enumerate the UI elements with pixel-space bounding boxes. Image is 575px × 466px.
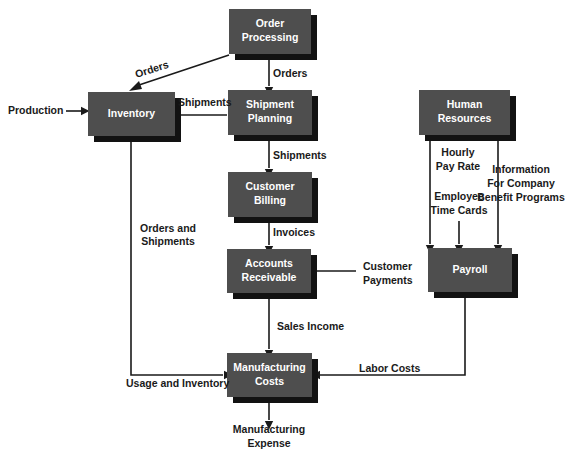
node-inventory[interactable]: Inventory (88, 92, 181, 142)
edge-label-labor_costs: Labor Costs (359, 362, 420, 374)
edge-label-shipments_to_inv: Shipments (178, 96, 232, 108)
node-label-order_processing: Order (256, 17, 285, 29)
node-payroll[interactable]: Payroll (428, 248, 518, 298)
edge-label-orders_and_shipments_2: Shipments (141, 235, 195, 247)
node-accounts_receivable[interactable]: AccountsReceivable (227, 249, 317, 299)
edge-label-info_benefit_3: Benefit Programs (477, 191, 565, 203)
edge-label-orders_and_shipments_1: Orders and (140, 222, 196, 234)
edge-label-info_benefit_2: For Company (487, 177, 555, 189)
edge-label-customer_payments_2: Payments (363, 274, 413, 286)
edge-label-production: Production (8, 104, 63, 116)
edge-label-customer_payments_1: Customer (363, 260, 412, 272)
edge-label-employee_time_cards_2: Time Cards (431, 204, 488, 216)
edge-label-hourly_pay_rate_1: Hourly (441, 146, 474, 158)
edge-label-manufacturing_expense_1: Manufacturing (233, 423, 305, 435)
node-label2-order_processing: Processing (242, 31, 299, 43)
node-order_processing[interactable]: OrderProcessing (229, 9, 317, 60)
node-label-manufacturing_costs: Manufacturing (233, 361, 305, 373)
node-label-customer_billing: Customer (245, 180, 294, 192)
node-label-accounts_receivable: Accounts (245, 257, 293, 269)
flowchart-svg: OrderProcessingInventoryShipmentPlanning… (0, 0, 575, 466)
node-label2-accounts_receivable: Receivable (242, 271, 297, 283)
node-label2-customer_billing: Billing (254, 194, 286, 206)
edge-label-invoices: Invoices (273, 226, 315, 238)
edge-label-sales_income: Sales Income (277, 320, 344, 332)
node-human_resources[interactable]: HumanResources (419, 90, 516, 141)
edge-label-usage_and_inventory: Usage and Inventory (126, 377, 229, 389)
node-label-human_resources: Human (447, 98, 483, 110)
arrow-into-inventory-diagonal (129, 81, 142, 91)
diagram-canvas: OrderProcessingInventoryShipmentPlanning… (0, 0, 575, 466)
node-manufacturing_costs[interactable]: ManufacturingCosts (227, 353, 318, 403)
node-customer_billing[interactable]: CustomerBilling (228, 172, 318, 223)
node-label-payroll: Payroll (452, 263, 487, 275)
edge-label-info_benefit_1: Information (492, 163, 550, 175)
edge-label-hourly_pay_rate_2: Pay Rate (436, 160, 481, 172)
node-label2-shipment_planning: Planning (248, 112, 292, 124)
edge-label-orders_vertical: Orders (273, 67, 308, 79)
inventory-to-manufacturing (131, 136, 223, 375)
edge-label-manufacturing_expense_2: Expense (247, 437, 290, 449)
node-shipment_planning[interactable]: ShipmentPlanning (228, 90, 318, 141)
node-label2-manufacturing_costs: Costs (255, 375, 284, 387)
node-label2-human_resources: Resources (438, 112, 492, 124)
node-label-shipment_planning: Shipment (246, 98, 294, 110)
node-label-inventory: Inventory (108, 107, 155, 119)
edge-label-shipments_down: Shipments (273, 149, 327, 161)
